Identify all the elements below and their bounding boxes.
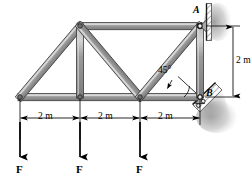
joint-top-left [78,24,83,29]
label-dim-vertical-1: 2 m [236,56,251,66]
member-right-vertical [196,24,203,98]
load-arrows-group [20,122,140,157]
truss-diagram-svg [0,0,252,185]
member-diagonal-right-of-center [135,21,205,101]
member-diagonal-left-of-center [75,21,145,101]
truss-members-group [15,21,205,101]
member-bottom-chord [18,94,202,101]
label-joint-a: A [193,5,200,15]
wall-plate-a [207,4,212,41]
member-top-chord [78,23,202,30]
label-dim-horizontal-3: 2 m [158,112,173,122]
label-dim-horizontal-1: 2 m [38,112,53,122]
figure-canvas: A B 45° 2 m 2 m 2 m 2 m F F F [0,0,252,185]
joint-bottom-left [18,95,23,100]
label-force-2: F [76,164,83,175]
label-force-3: F [136,164,143,175]
label-dim-horizontal-2: 2 m [98,112,113,122]
roller-wheel-b-2 [201,99,205,103]
label-angle-45: 45° [158,66,171,76]
label-force-1: F [16,164,23,175]
joint-bottom-mid-1 [78,95,83,100]
member-left-diagonal [15,21,85,101]
joint-bottom-mid-2 [138,95,143,100]
label-joint-b: B [206,88,213,98]
